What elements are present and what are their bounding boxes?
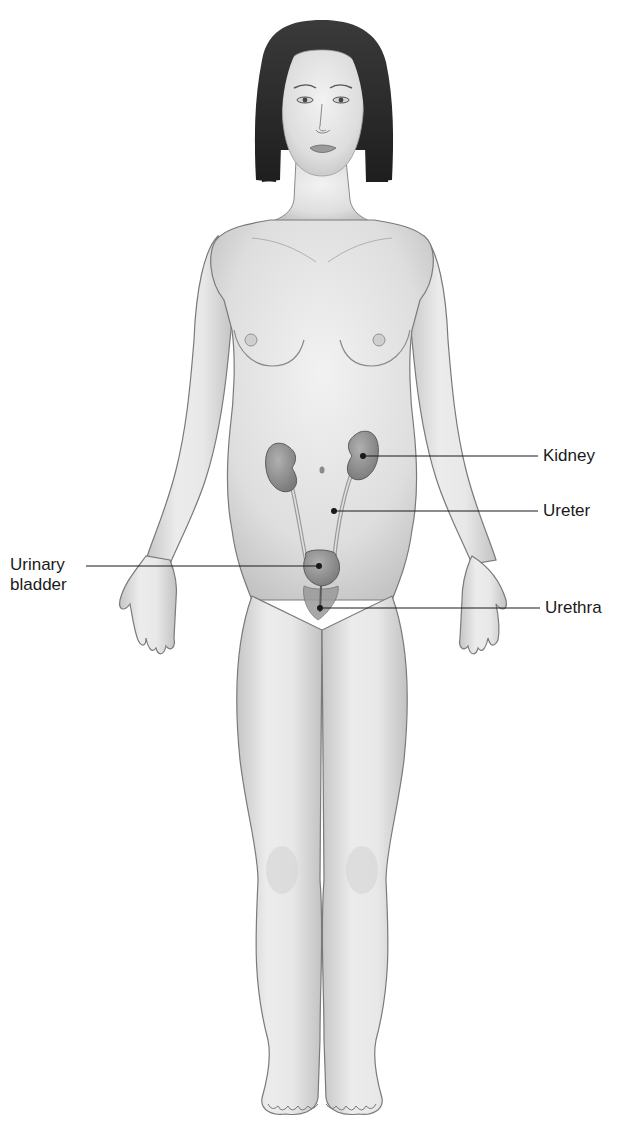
ureter-pointer-dot: [332, 509, 337, 514]
label-urethra: Urethra: [545, 598, 602, 618]
right-arm: [408, 236, 506, 654]
bladder-pointer-dot: [317, 564, 322, 569]
label-urinary-bladder-line2: bladder: [10, 575, 67, 595]
navel: [320, 467, 325, 474]
label-kidney: Kidney: [543, 446, 595, 466]
label-urinary-bladder: Urinary bladder: [10, 555, 67, 595]
label-ureter: Ureter: [543, 501, 590, 521]
legs: [237, 596, 407, 1114]
anatomy-figure: [0, 0, 625, 1133]
kidney-pointer-dot: [361, 454, 366, 459]
torso: [211, 220, 434, 600]
left-arm: [120, 236, 234, 654]
urethra-pointer-dot: [318, 606, 323, 611]
label-urinary-bladder-line1: Urinary: [10, 555, 67, 575]
